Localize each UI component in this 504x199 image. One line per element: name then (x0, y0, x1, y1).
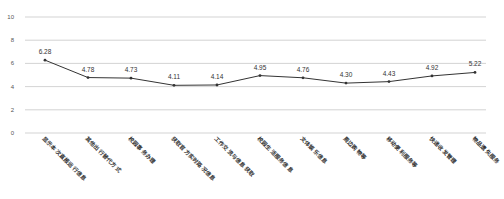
x-tick-label: 文体娱乐信息 (299, 135, 330, 166)
y-tick-label: 6 (11, 60, 15, 66)
y-tick-label: 8 (11, 37, 15, 43)
x-tick-label: 显示本次直报运行信息 (41, 135, 89, 183)
x-tick-label: 校园事务办理 (127, 135, 158, 166)
x-tick-label: 物品遗失服务 (471, 135, 502, 166)
data-point (173, 84, 176, 87)
data-point (431, 75, 434, 78)
data-point (302, 76, 305, 79)
x-tick-label: 校园生活服务信息 (256, 135, 296, 175)
x-tick-label: 工作交流与信息获取 (213, 135, 257, 179)
y-axis-ticks: 0246810 (7, 14, 14, 136)
data-label: 4.76 (297, 66, 310, 73)
data-label: 4.78 (82, 66, 95, 73)
x-tick-label: 其他出行替代方式 (84, 135, 124, 175)
x-tick-label: 快递收发管理 (427, 134, 459, 166)
data-label: 4.30 (340, 71, 353, 78)
y-tick-label: 4 (11, 84, 15, 90)
data-point (474, 71, 477, 74)
data-point (345, 82, 348, 85)
data-label: 4.11 (168, 73, 181, 80)
data-label: 4.43 (383, 70, 396, 77)
x-axis-labels: 显示本次直报运行信息其他出行替代方式校园事务办理获取官方实时路况信息工作交流与信… (41, 134, 502, 183)
x-tick-label: 移动便利服务等 (385, 135, 420, 170)
data-point (130, 77, 133, 80)
y-tick-label: 0 (11, 130, 15, 136)
data-label: 4.92 (426, 64, 439, 71)
data-point (259, 74, 262, 77)
data-point (44, 59, 47, 62)
data-label: 4.73 (125, 66, 138, 73)
x-tick-label: 获取官方实时路况信息 (170, 135, 218, 183)
data-point (388, 80, 391, 83)
data-label: 6.28 (39, 48, 52, 55)
y-tick-label: 10 (7, 14, 14, 20)
x-tick-label: 周边购物等 (342, 135, 369, 162)
data-point (216, 84, 219, 87)
data-point (87, 76, 90, 79)
line-chart: 0246810 6.284.784.734.114.144.954.764.30… (0, 0, 504, 199)
grid-lines (25, 17, 486, 133)
data-label: 5.22 (469, 60, 482, 67)
data-label: 4.95 (254, 64, 267, 71)
y-tick-label: 2 (11, 107, 15, 113)
data-label: 4.14 (211, 73, 224, 80)
